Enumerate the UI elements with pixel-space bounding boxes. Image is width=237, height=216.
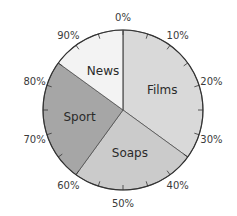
scale-label: 20% bbox=[200, 76, 222, 87]
scale-label: 0% bbox=[115, 12, 131, 23]
scale-label: 10% bbox=[167, 30, 189, 41]
scale-label: 60% bbox=[57, 180, 79, 191]
scale-label: 30% bbox=[200, 134, 222, 145]
pie-chart: 0%10%20%30%40%50%60%70%80%90% FilmsSoaps… bbox=[0, 0, 237, 216]
scale-label: 80% bbox=[23, 76, 45, 87]
slice-label-news: News bbox=[87, 64, 119, 78]
scale-label: 50% bbox=[112, 198, 134, 209]
scale-label: 70% bbox=[23, 134, 45, 145]
scale-label: 40% bbox=[167, 180, 189, 191]
slice-label-soaps: Soaps bbox=[112, 146, 148, 160]
slice-label-sport: Sport bbox=[63, 110, 96, 124]
slice-label-films: Films bbox=[147, 83, 178, 97]
scale-label: 90% bbox=[57, 30, 79, 41]
